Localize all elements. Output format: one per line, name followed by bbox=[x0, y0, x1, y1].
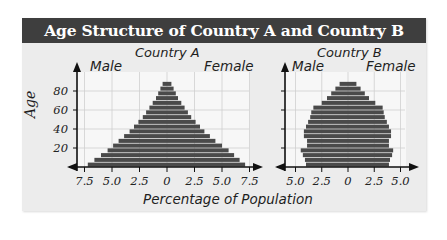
country-a-plot-area bbox=[78, 72, 250, 167]
country-a-male-bar bbox=[94, 158, 167, 162]
country-b-female-bar bbox=[348, 158, 390, 162]
country-a-male-bar bbox=[143, 115, 167, 119]
country-b-x-tick-label: 2.5 bbox=[313, 174, 331, 188]
x-axis-label: Percentage of Population bbox=[143, 191, 313, 207]
country-a-female-bar bbox=[167, 134, 210, 138]
arrow-right-icon bbox=[253, 163, 263, 171]
country-b-male-bar bbox=[322, 101, 348, 105]
country-a-female-bar bbox=[167, 125, 200, 129]
country-a-male-bar bbox=[146, 110, 167, 114]
country-a-female-bar bbox=[167, 96, 178, 100]
country-a-female-bar bbox=[167, 91, 176, 95]
country-b-male-bar bbox=[313, 106, 348, 110]
country-a-female-bar bbox=[167, 120, 196, 124]
country-b-female-label: Female bbox=[366, 58, 416, 74]
country-a-male-bar bbox=[153, 101, 167, 105]
arrow-left-icon bbox=[275, 163, 285, 171]
country-a-male-bar bbox=[124, 134, 167, 138]
country-a-x-tick-label: 7.5 bbox=[240, 174, 258, 188]
country-b-plot-area bbox=[286, 72, 406, 167]
country-a-female-bar bbox=[167, 153, 234, 157]
country-b-female-bar bbox=[348, 87, 361, 91]
arrow-up-icon bbox=[73, 62, 81, 72]
country-a-female-bar bbox=[167, 82, 171, 86]
country-a-male-bar bbox=[149, 106, 167, 110]
country-b-female-bar bbox=[348, 153, 392, 157]
country-a-female-bar bbox=[167, 115, 191, 119]
country-b-female-bar bbox=[348, 106, 383, 110]
country-b-female-bar bbox=[348, 163, 389, 167]
country-a-male-bar bbox=[156, 96, 167, 100]
country-b-male-bar bbox=[308, 120, 348, 124]
y-tick-20: 20 bbox=[48, 141, 68, 155]
country-b-male-bar bbox=[306, 163, 348, 167]
country-a-female-bar bbox=[167, 148, 229, 152]
country-b-female-bar bbox=[348, 139, 389, 143]
country-a-male-bar bbox=[88, 163, 167, 167]
country-b-female-bar bbox=[348, 134, 391, 138]
country-b-female-bar bbox=[348, 144, 389, 148]
arrow-up-icon bbox=[281, 62, 289, 72]
country-a-x-tick-label: 7.5 bbox=[75, 174, 93, 188]
country-a-x-tick-label: 5.0 bbox=[213, 174, 231, 188]
country-b-female-bar bbox=[348, 110, 384, 114]
country-a-male-bar bbox=[134, 125, 167, 129]
country-a-male-bar bbox=[160, 87, 167, 91]
country-b-x-tick-label: 5.0 bbox=[391, 174, 409, 188]
country-a-male-bar bbox=[130, 129, 167, 133]
country-a-male-bar bbox=[101, 153, 167, 157]
country-b-male-bar bbox=[335, 87, 348, 91]
country-b-male-bar bbox=[327, 96, 348, 100]
country-a-male-bar bbox=[158, 91, 167, 95]
country-b-male-bar bbox=[301, 148, 348, 152]
country-a-female-bar bbox=[167, 144, 222, 148]
country-a-female-bar bbox=[167, 163, 245, 167]
country-b-male-label: Male bbox=[292, 58, 324, 74]
country-a-female-label: Female bbox=[204, 58, 254, 74]
country-a-male-label: Male bbox=[90, 58, 122, 74]
country-a-male-bar bbox=[113, 144, 167, 148]
country-b-female-bar bbox=[348, 115, 385, 119]
country-a-male-bar bbox=[108, 148, 167, 152]
country-b-male-bar bbox=[307, 144, 348, 148]
country-a-female-bar bbox=[167, 106, 185, 110]
country-b-female-bar bbox=[348, 82, 356, 86]
country-b-female-bar bbox=[348, 91, 365, 95]
country-a-female-bar bbox=[167, 139, 215, 143]
country-b-female-bar bbox=[348, 96, 369, 100]
y-tick-40: 40 bbox=[48, 122, 68, 136]
country-b-female-bar bbox=[348, 101, 375, 105]
country-a-female-bar bbox=[167, 87, 174, 91]
country-a-x-tick-label: 5.0 bbox=[103, 174, 121, 188]
country-b-female-bar bbox=[348, 129, 391, 133]
country-b-female-bar bbox=[348, 125, 389, 129]
country-a-male-bar bbox=[119, 139, 167, 143]
country-b-male-bar bbox=[340, 82, 348, 86]
y-tick-80: 80 bbox=[48, 84, 68, 98]
country-b-male-bar bbox=[305, 158, 348, 162]
country-a-title: Country A bbox=[135, 45, 200, 60]
country-a-female-bar bbox=[167, 101, 181, 105]
y-axis-label: Age bbox=[22, 91, 38, 118]
country-b-male-bar bbox=[306, 125, 348, 129]
country-a-female-bar bbox=[167, 158, 240, 162]
country-b-male-bar bbox=[304, 129, 348, 133]
country-b-male-bar bbox=[304, 134, 348, 138]
country-b-male-bar bbox=[307, 139, 348, 143]
country-b-male-bar bbox=[311, 110, 348, 114]
country-a-x-tick-label: 2.5 bbox=[185, 174, 203, 188]
country-b-female-bar bbox=[348, 120, 387, 124]
country-a-male-bar bbox=[163, 82, 167, 86]
country-b-male-bar bbox=[310, 115, 348, 119]
country-b-x-tick-label: 5.0 bbox=[286, 174, 304, 188]
arrow-left-icon bbox=[67, 163, 77, 171]
country-b-x-tick-label: 2.5 bbox=[365, 174, 383, 188]
country-b-male-bar bbox=[303, 153, 348, 157]
arrow-right-icon bbox=[409, 163, 419, 171]
country-a-female-bar bbox=[167, 110, 188, 114]
country-a-x-tick-label: 0 bbox=[163, 174, 170, 188]
country-b-x-tick-label: 0 bbox=[344, 174, 351, 188]
country-b-female-bar bbox=[348, 148, 393, 152]
country-a-female-bar bbox=[167, 129, 204, 133]
country-a-x-tick-label: 2.5 bbox=[130, 174, 148, 188]
